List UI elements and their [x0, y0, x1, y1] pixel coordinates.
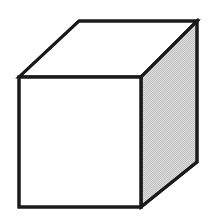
cube-diagram [0, 0, 217, 219]
cube-front-face [19, 77, 141, 207]
figure-canvas [0, 0, 217, 219]
